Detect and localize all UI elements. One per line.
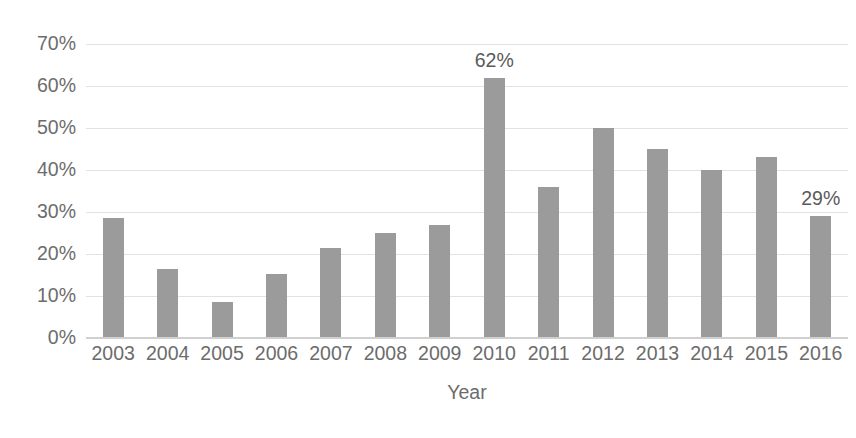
x-tick-label: 2005: [200, 344, 243, 364]
bar-2007: [320, 248, 341, 338]
x-tick-label: 2016: [799, 344, 842, 364]
x-tick-label: 2014: [690, 344, 733, 364]
bar-2004: [157, 269, 178, 338]
y-tick-label: 30%: [0, 202, 76, 222]
y-tick-label: 50%: [0, 118, 76, 138]
x-tick-label: 2015: [745, 344, 788, 364]
bar-series: [86, 44, 848, 338]
bar-2016: [810, 216, 831, 338]
bar-2008: [375, 233, 396, 338]
x-tick-label: 2011: [528, 344, 570, 364]
bar-2012: [593, 128, 614, 338]
y-tick-label: 60%: [0, 76, 76, 96]
bar-2006: [266, 274, 287, 338]
x-axis: 2003200420052006200720082009201020112012…: [86, 344, 848, 378]
x-tick-label: 2003: [92, 344, 135, 364]
x-tick-label: 2004: [146, 344, 189, 364]
bar-2014: [701, 170, 722, 338]
y-axis: 0%10%20%30%40%50%60%70%: [0, 0, 86, 438]
bar-2009: [429, 225, 450, 338]
y-tick-label: 20%: [0, 244, 76, 264]
bar-chart: 0%10%20%30%40%50%60%70% 62%29% 200320042…: [0, 0, 856, 438]
x-tick-label: 2006: [255, 344, 298, 364]
data-label-2016: 29%: [801, 189, 840, 209]
y-tick-label: 70%: [0, 34, 76, 54]
data-label-2010: 62%: [475, 51, 514, 71]
x-tick-label: 2013: [636, 344, 679, 364]
y-tick-label: 10%: [0, 286, 76, 306]
x-tick-label: 2012: [581, 344, 624, 364]
bar-2010: [484, 78, 505, 338]
plot-area: [86, 44, 848, 338]
bar-2015: [756, 157, 777, 338]
x-tick-label: 2007: [309, 344, 352, 364]
bar-2003: [103, 218, 124, 338]
bar-2013: [647, 149, 668, 338]
x-axis-title: Year: [86, 383, 848, 403]
y-tick-label: 0%: [0, 328, 76, 348]
gridline: [86, 338, 848, 339]
x-tick-label: 2008: [364, 344, 407, 364]
bar-2005: [212, 302, 233, 338]
x-axis-line: [86, 337, 848, 338]
x-tick-label: 2009: [418, 344, 461, 364]
y-tick-label: 40%: [0, 160, 76, 180]
bar-2011: [538, 187, 559, 338]
x-tick-label: 2010: [473, 344, 516, 364]
